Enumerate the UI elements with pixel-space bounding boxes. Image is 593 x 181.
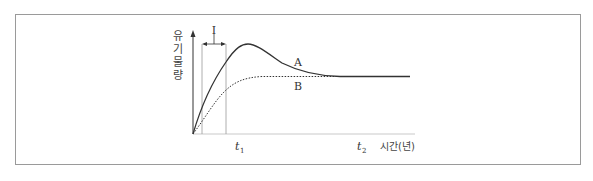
x-axis-label: 시간(년)	[380, 141, 415, 152]
y-axis-label-char: 물	[173, 56, 183, 69]
arrow-right-icon	[221, 42, 226, 46]
tick-subscript: 1	[240, 147, 244, 155]
curve-a-label: A	[293, 56, 303, 69]
tick-t2: t 2	[357, 140, 366, 155]
curve-b-label: B	[294, 80, 302, 93]
tick-subscript: 2	[362, 147, 366, 155]
y-axis	[191, 30, 196, 134]
tick-t1: t 1	[235, 140, 244, 155]
organic-matter-diagram: 유 기 물 량 I A B t 1 t 2 시간(년)	[0, 0, 593, 181]
y-axis-label-char: 량	[173, 69, 183, 82]
interval-label: I	[212, 24, 216, 37]
y-axis-label-char: 유	[173, 30, 183, 43]
y-axis-arrow-icon	[191, 30, 196, 37]
y-axis-label-char: 기	[173, 43, 183, 56]
arrow-left-icon	[202, 42, 207, 46]
